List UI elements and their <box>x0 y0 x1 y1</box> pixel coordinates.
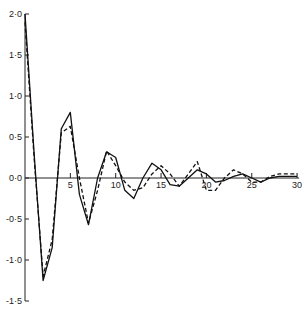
x-tick-label: 30 <box>292 180 302 190</box>
series-lines <box>25 14 297 281</box>
y-tick-label: 1·5 <box>9 50 22 60</box>
y-tick-label: 1·0 <box>9 91 22 101</box>
y-tick-label: -1·0 <box>6 255 22 265</box>
y-tick-label: 0·0 <box>9 173 22 183</box>
y-tick-label: 2·0 <box>9 9 22 19</box>
x-tick-label: 15 <box>156 180 166 190</box>
y-tick-label: -0·5 <box>6 214 22 224</box>
y-tick-label: 0·5 <box>9 132 22 142</box>
solid-series-line <box>25 14 297 281</box>
x-tick-label: 10 <box>111 180 121 190</box>
damped-oscillation-chart: 2·01·51·00·50·0-0·5-1·0-1·5 51015202530 <box>0 0 308 309</box>
y-tick-label: -1·5 <box>6 296 22 306</box>
dashed-series-line <box>25 22 297 276</box>
y-axis: 2·01·51·00·50·0-0·5-1·0-1·5 <box>6 9 29 306</box>
x-tick-label: 5 <box>68 180 73 190</box>
